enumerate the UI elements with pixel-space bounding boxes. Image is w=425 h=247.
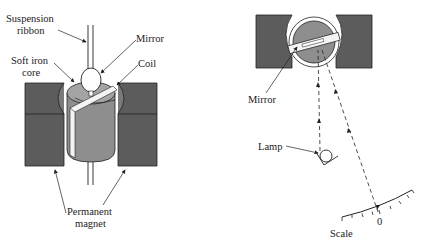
label-suspension-line1: Suspension — [6, 13, 55, 24]
label-suspension-line2: ribbon — [17, 25, 45, 36]
label-mirror-left: Mirror — [136, 33, 164, 44]
label-scale-zero: 0 — [377, 216, 382, 227]
label-mirror-right: Mirror — [248, 94, 276, 105]
lamp — [316, 150, 338, 165]
label-soft-iron-line1: Soft iron — [11, 55, 49, 66]
right-galvanometer: Mirror Lamp 0 Scale — [248, 15, 414, 239]
label-coil: Coil — [138, 58, 156, 69]
permanent-magnet-left — [25, 83, 64, 166]
label-permanent-line1: Permanent — [67, 206, 112, 217]
galvanometer-diagram: Suspension ribbon Mirror Soft iron core … — [0, 0, 425, 247]
label-soft-iron-line2: core — [22, 67, 40, 78]
label-lamp: Lamp — [258, 141, 283, 152]
label-scale: Scale — [330, 228, 353, 239]
permanent-magnet-right — [118, 83, 157, 166]
light-beam — [316, 50, 380, 212]
label-permanent-line2: magnet — [75, 218, 106, 229]
left-galvanometer: Suspension ribbon Mirror Soft iron core … — [6, 13, 164, 229]
